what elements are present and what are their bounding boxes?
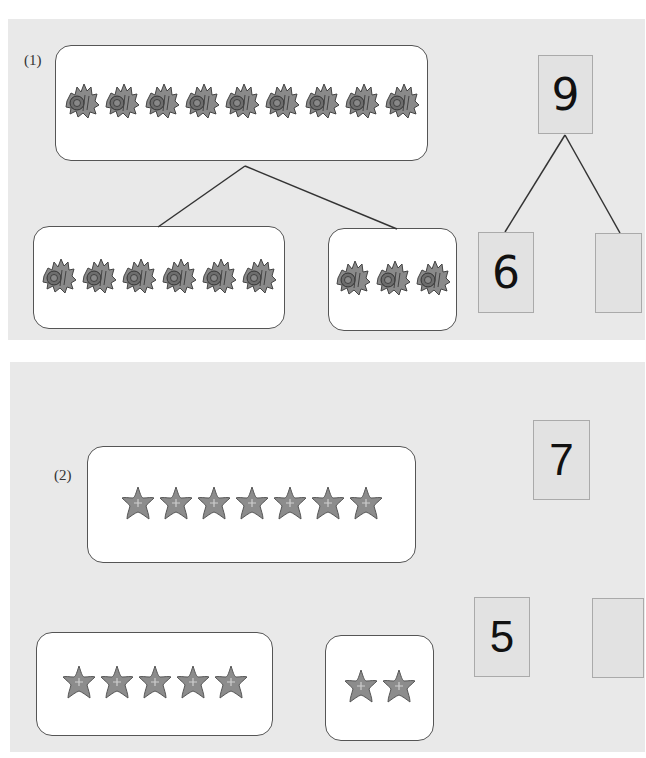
problem-1-label: (1): [24, 52, 42, 69]
shell-icon: [200, 256, 238, 300]
shell-icon: [160, 256, 198, 300]
starfish-icon: [61, 664, 97, 704]
shell-icon: [414, 258, 452, 302]
shell-icon: [303, 81, 341, 125]
starfish-icon: [196, 485, 232, 525]
problem-2-total-group: [87, 446, 416, 563]
problem-2-tree-right-answer[interactable]: [592, 598, 644, 678]
shell-icon: [343, 81, 381, 125]
shell-icon: [183, 81, 221, 125]
starfish-icon: [99, 664, 135, 704]
shell-icon: [334, 258, 372, 302]
problem-2-right-group: [325, 635, 434, 741]
problem-1-left-group: [33, 226, 285, 329]
starfish-icon: [381, 668, 417, 708]
problem-1-total-group: [55, 45, 428, 161]
starfish-icon: [234, 485, 270, 525]
problem-2-left-group: [36, 632, 273, 736]
shell-icon: [103, 81, 141, 125]
starfish-icon: [213, 664, 249, 704]
shell-icon: [63, 81, 101, 125]
problem-1-tree-left: 6: [478, 232, 534, 313]
starfish-icon: [158, 485, 194, 525]
problem-2-tree-left: 5: [474, 597, 530, 677]
starfish-icon: [120, 485, 156, 525]
starfish-icon: [137, 664, 173, 704]
problem-1-tree-top: 9: [538, 55, 593, 134]
shell-icon: [240, 256, 278, 300]
shell-icon: [383, 81, 421, 125]
problem-1-tree-right-answer[interactable]: [595, 233, 642, 313]
shell-icon: [80, 256, 118, 300]
problem-1-right-group: [328, 228, 457, 331]
shell-icon: [263, 81, 301, 125]
shell-icon: [40, 256, 78, 300]
starfish-icon: [310, 485, 346, 525]
starfish-icon: [343, 668, 379, 708]
shell-icon: [223, 81, 261, 125]
problem-2-label: (2): [54, 467, 72, 484]
problem-2-tree-top: 7: [533, 420, 590, 500]
starfish-icon: [348, 485, 384, 525]
shell-icon: [143, 81, 181, 125]
shell-icon: [120, 256, 158, 300]
shell-icon: [374, 258, 412, 302]
starfish-icon: [175, 664, 211, 704]
starfish-icon: [272, 485, 308, 525]
